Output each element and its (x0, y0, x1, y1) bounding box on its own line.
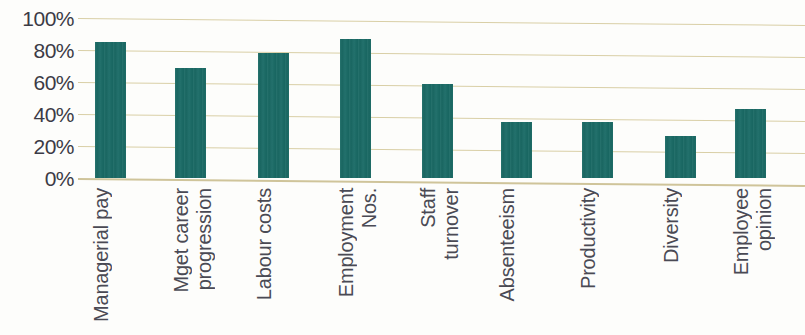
bar (735, 109, 766, 178)
y-axis-tick-label: 20% (33, 136, 74, 157)
x-axis-label-line: progression (194, 188, 215, 290)
bar (665, 136, 696, 178)
x-axis-label-line: Labour costs (254, 188, 275, 300)
x-axis-label-line: Mget career (171, 188, 192, 293)
x-axis-label-line: Productivity (578, 188, 599, 289)
y-axis-tick-label: 100% (22, 8, 74, 29)
x-axis-category-label: Absenteeism (497, 188, 520, 335)
y-axis-tick-label: 60% (33, 72, 74, 93)
x-axis-label-line: Nos. (359, 188, 380, 228)
bar (582, 122, 613, 178)
x-axis-category-label: Employeeopinion (731, 188, 777, 335)
x-axis-category-label: Managerial pay (91, 188, 114, 335)
bars-layer (78, 0, 805, 190)
x-axis-label-line: Managerial pay (91, 188, 112, 322)
bar-chart: 100%80%60%40%20%0% Managerial payMget ca… (0, 0, 805, 335)
y-axis-tick-label: 0% (45, 168, 74, 189)
plot-area (78, 0, 805, 190)
x-axis-label-line: Staff (418, 188, 439, 228)
bar (175, 68, 206, 178)
x-axis-label-line: Absenteeism (497, 188, 518, 301)
x-axis-label-line: Employment (336, 188, 357, 297)
x-axis-category-label: Diversity (661, 188, 684, 335)
bar (258, 53, 289, 178)
x-axis-category-label: Labour costs (254, 188, 277, 335)
x-axis-category-label: Staffturnover (418, 188, 464, 335)
y-axis-tick-label: 80% (33, 40, 74, 61)
y-axis: 100%80%60%40%20%0% (0, 0, 78, 190)
x-axis-label-line: Employee (731, 188, 752, 275)
y-axis-tick-label: 40% (33, 104, 74, 125)
bar (501, 122, 532, 178)
x-axis-label-line: Diversity (661, 188, 682, 263)
x-axis-label-line: turnover (441, 188, 462, 260)
x-axis: Managerial payMget careerprogressionLabo… (78, 188, 805, 335)
bar (340, 39, 371, 178)
x-axis-label-line: opinion (754, 188, 775, 251)
x-axis-category-label: Productivity (578, 188, 601, 335)
x-axis-category-label: EmploymentNos. (336, 188, 382, 335)
x-axis-category-label: Mget careerprogression (171, 188, 217, 335)
bar (95, 42, 126, 178)
bar (422, 84, 453, 178)
